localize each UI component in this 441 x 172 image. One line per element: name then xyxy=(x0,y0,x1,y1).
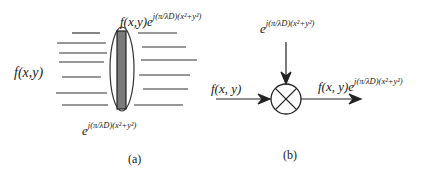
output-label-b-base: f(x, y)e xyxy=(318,79,354,94)
caption-b: (b) xyxy=(283,149,297,161)
output-label-a-exponent: j(π/λD)(x²+y²) xyxy=(153,11,202,21)
multiplier-phase-label-exponent: j(π/λD)(x²+y²) xyxy=(266,18,315,28)
lens-phase-label: ej(π/λD)(x²+y²) xyxy=(82,124,136,137)
lens-phase-label-base: e xyxy=(82,123,88,138)
lens-phase-label-exponent: j(π/λD)(x²+y²) xyxy=(88,120,137,130)
input-label-b: f(x, y) xyxy=(211,82,241,95)
input-label-a: f(x,y) xyxy=(14,66,43,80)
multiplier-input-arrow xyxy=(281,42,291,84)
incoming-rays xyxy=(56,33,108,105)
outgoing-rays xyxy=(134,33,197,105)
output-label-b-exponent: j(π/λD)(x²+y²) xyxy=(354,76,403,86)
multiplier-phase-label: ej(π/λD)(x²+y²) xyxy=(260,22,314,35)
multiplier-phase-label-base: e xyxy=(260,21,266,36)
output-label-b: f(x, y)ej(π/λD)(x²+y²) xyxy=(318,80,403,93)
output-label-a-base: f(x,y)e xyxy=(120,14,153,29)
caption-a: (a) xyxy=(128,153,141,165)
output-label-a: f(x,y)ej(π/λD)(x²+y²) xyxy=(120,15,201,28)
multiplier-node xyxy=(271,84,301,114)
output-arrow xyxy=(301,94,361,104)
phase-plate xyxy=(117,31,126,109)
